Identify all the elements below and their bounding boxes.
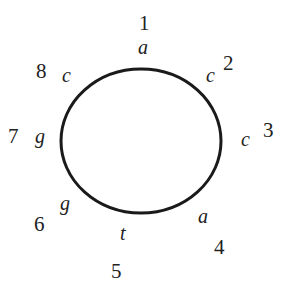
position-8-number: 8 [36,59,47,83]
circle-ring [61,69,221,213]
position-6-number: 6 [34,212,45,236]
position-4-base: a [198,205,208,227]
position-5-number: 5 [111,259,122,283]
position-3-base: c [241,128,250,150]
position-3-number: 3 [263,118,274,142]
position-2-base: c [206,64,215,86]
position-2-number: 2 [223,51,234,75]
position-4-number: 4 [214,235,225,259]
position-1-base: a [138,36,148,58]
position-8-base: c [62,64,71,86]
position-5-base: t [120,222,126,244]
circular-sequence-diagram: 1 a 2 c 3 c 4 a 5 t 6 g 7 g 8 c [0,0,289,291]
position-1-number: 1 [139,11,150,35]
position-6-base: g [60,192,70,215]
position-7-number: 7 [8,124,19,148]
position-7-base: g [35,125,45,148]
